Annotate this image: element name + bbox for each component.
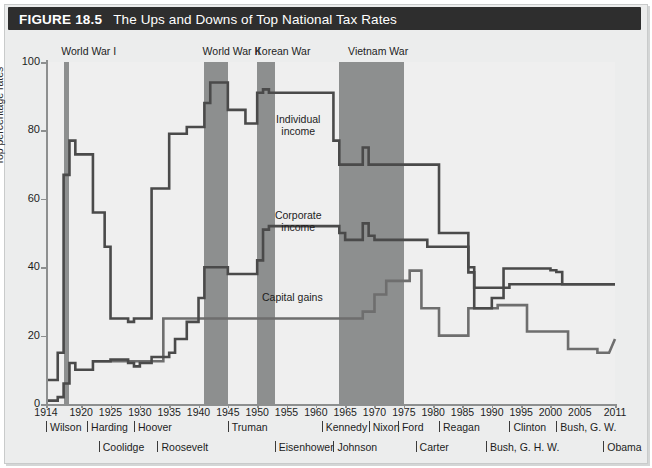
series-label: Corporateincome	[258, 209, 338, 233]
y-axis-tick-label: 100	[0, 55, 40, 67]
x-axis-tick-mark	[550, 404, 552, 408]
president-label: Reagan	[439, 421, 480, 433]
plot-area: 020406080100 191419201925193019351940194…	[0, 0, 652, 468]
president-tick-mark	[87, 421, 88, 432]
x-axis-tick-mark	[228, 404, 230, 408]
president-label: Truman	[228, 421, 268, 433]
x-axis-tick-mark	[111, 404, 113, 408]
x-axis-tick-mark	[492, 404, 494, 408]
president-name: Bush, G. H. W.	[490, 441, 559, 453]
president-label: Roosevelt	[157, 441, 208, 453]
figure-title-bar: FIGURE 18.5The Ups and Downs of Top Nati…	[8, 7, 641, 30]
president-label: Harding	[87, 421, 128, 433]
president-tick-mark	[439, 421, 440, 432]
president-tick-mark	[157, 441, 158, 452]
president-label: Nixon	[369, 421, 400, 433]
president-tick-mark	[99, 441, 100, 452]
series-label: Capital gains	[252, 291, 332, 303]
x-axis-tick-mark	[433, 404, 435, 408]
y-axis-tick-label: 80	[0, 123, 40, 135]
war-band-label: World War I	[61, 45, 116, 57]
figure-title: The Ups and Downs of Top National Tax Ra…	[113, 12, 397, 27]
president-tick-mark	[416, 441, 417, 452]
y-axis-tick-label: 40	[0, 260, 40, 272]
president-name: Coolidge	[103, 441, 144, 453]
president-name: Carter	[420, 441, 449, 453]
president-tick-mark	[398, 421, 399, 432]
x-axis-tick-mark	[521, 404, 523, 408]
y-axis-tick-label: 20	[0, 329, 40, 341]
president-tick-mark	[603, 441, 604, 452]
president-tick-mark	[556, 421, 557, 432]
president-name: Harding	[91, 421, 128, 433]
war-band-label: World War II	[203, 45, 261, 57]
president-label: Coolidge	[99, 441, 144, 453]
y-axis-tick-mark	[41, 336, 46, 338]
y-axis-tick-mark	[41, 267, 46, 269]
president-tick-mark	[134, 421, 135, 432]
x-axis-tick-mark	[374, 404, 376, 408]
president-label: Bush, G. H. W.	[486, 441, 559, 453]
y-axis-label: Top percentage rates	[0, 36, 5, 196]
president-tick-mark	[333, 441, 334, 452]
x-axis-tick-mark	[462, 404, 464, 408]
x-axis-tick-mark	[287, 404, 289, 408]
x-axis-tick-mark	[404, 404, 406, 408]
president-name: Obama	[607, 441, 641, 453]
x-axis-line	[46, 404, 616, 406]
president-label: Clinton	[509, 421, 546, 433]
president-label: Johnson	[333, 441, 377, 453]
president-label: Obama	[603, 441, 641, 453]
president-tick-mark	[322, 421, 323, 432]
x-axis-tick-mark	[46, 404, 48, 408]
president-name: Truman	[232, 421, 268, 433]
president-name: Wilson	[50, 421, 82, 433]
president-name: Clinton	[513, 421, 546, 433]
x-axis-tick-mark	[316, 404, 318, 408]
y-axis-tick-mark	[41, 62, 46, 64]
x-axis-tick-mark	[580, 404, 582, 408]
president-label: Ford	[398, 421, 424, 433]
y-axis-tick-mark	[41, 130, 46, 132]
president-tick-mark	[228, 421, 229, 432]
president-tick-mark	[509, 421, 510, 432]
x-axis-tick-mark	[257, 404, 259, 408]
president-tick-mark	[46, 421, 47, 432]
x-axis-tick-mark	[140, 404, 142, 408]
series-label: Individualincome	[258, 113, 338, 137]
president-name: Ford	[402, 421, 424, 433]
y-axis-tick-label: 60	[0, 192, 40, 204]
president-label: Kennedy	[322, 421, 367, 433]
president-label: Hoover	[134, 421, 172, 433]
x-axis-tick-mark	[169, 404, 171, 408]
y-axis-tick-mark	[41, 199, 46, 201]
president-name: Nixon	[373, 421, 400, 433]
president-name: Bush, G. W.	[560, 421, 616, 433]
president-label: Carter	[416, 441, 449, 453]
president-name: Kennedy	[326, 421, 367, 433]
figure-root: FIGURE 18.5The Ups and Downs of Top Nati…	[0, 0, 652, 468]
president-name: Hoover	[138, 421, 172, 433]
x-axis-tick-mark	[81, 404, 83, 408]
president-name: Roosevelt	[161, 441, 208, 453]
president-label: Eisenhower	[275, 441, 334, 453]
war-band-label: Vietnam War	[348, 45, 408, 57]
x-axis-tick-mark	[615, 404, 617, 408]
y-axis-line	[46, 60, 48, 406]
president-label: Bush, G. W.	[556, 421, 616, 433]
president-tick-mark	[275, 441, 276, 452]
president-name: Eisenhower	[279, 441, 334, 453]
president-tick-mark	[369, 421, 370, 432]
x-axis-tick-mark	[345, 404, 347, 408]
president-name: Reagan	[443, 421, 480, 433]
president-name: Johnson	[337, 441, 377, 453]
president-label: Wilson	[46, 421, 82, 433]
x-axis-tick-mark	[199, 404, 201, 408]
war-band-label: Korean War	[255, 45, 311, 57]
series-line	[46, 223, 615, 400]
figure-number: FIGURE 18.5	[19, 12, 102, 27]
president-tick-mark	[486, 441, 487, 452]
